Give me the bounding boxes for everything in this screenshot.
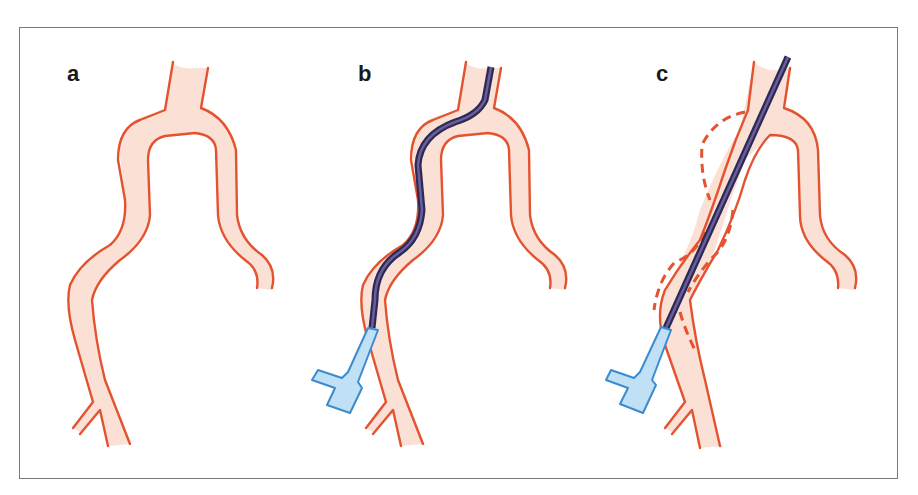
panel-b: b — [312, 61, 566, 446]
panel-label-c: c — [656, 61, 668, 86]
sheath-introducer — [312, 328, 378, 413]
aortic-arch-vessel — [68, 62, 273, 446]
panel-c: c — [606, 57, 856, 448]
sheath-introducer — [606, 327, 671, 413]
figure-canvas: a b c — [0, 0, 918, 495]
panel-a: a — [67, 61, 273, 446]
panel-label-a: a — [67, 61, 80, 86]
panel-label-b: b — [358, 61, 371, 86]
